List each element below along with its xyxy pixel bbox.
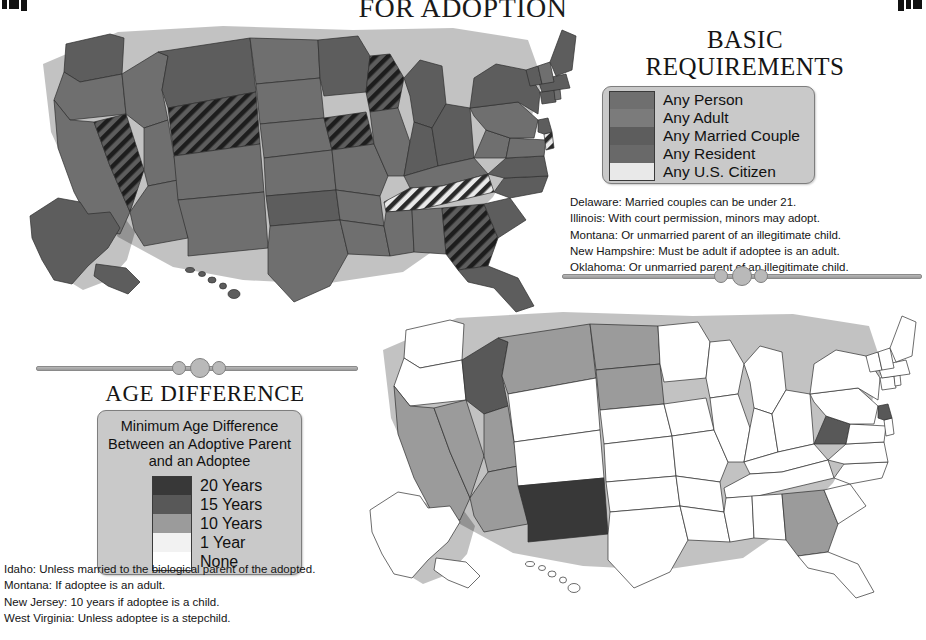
legend-swatch-15-years [152, 495, 192, 514]
state-alabama [412, 208, 446, 254]
state-washington [64, 34, 124, 82]
legend-label-10-years: 10 Years [200, 516, 262, 532]
state-maine [550, 30, 576, 76]
state-hawaii [526, 562, 581, 593]
state-new-jersey [878, 404, 892, 420]
footnote-west-virginia: West Virginia: Unless adoptee is a stepc… [4, 610, 354, 626]
legend-label-any-adult: Any Adult [663, 110, 729, 126]
basic-requirements-heading: BASIC REQUIREMENTS [585, 26, 905, 80]
basic-requirements-heading-line1: BASIC [585, 26, 905, 53]
basic-requirements-legend[interactable]: Any Person Any Adult Any Married Couple … [602, 86, 815, 184]
legend-item-20-years[interactable]: 20 Years [152, 476, 293, 495]
legend-item-any-person[interactable]: Any Person [609, 91, 808, 109]
state-minnesota [658, 322, 710, 382]
state-iowa [664, 398, 714, 436]
footnote-new-jersey: New Jersey: 10 years if adoptee is a chi… [4, 594, 354, 610]
state-north-dakota [250, 38, 320, 84]
footnote-illinois: Illinois: With court permission, minors … [570, 210, 920, 226]
state-minnesota [318, 36, 370, 96]
legend-label-20-years: 20 Years [200, 478, 262, 494]
state-maine [890, 316, 916, 362]
legend-item-any-adult[interactable]: Any Adult [609, 109, 808, 127]
state-rhode-island [894, 375, 901, 386]
legend-title-line1: Minimum Age Difference [106, 418, 293, 436]
legend-label-any-us-citizen: Any U.S. Citizen [663, 164, 776, 180]
state-south-dakota [596, 364, 664, 410]
divider-knob-left [714, 269, 728, 283]
divider-knob-center [732, 266, 752, 286]
legend-title-line3: and an Adoptee [106, 453, 293, 471]
legend-swatch-10-years [152, 514, 192, 533]
legend-label-any-resident: Any Resident [663, 146, 755, 162]
age-difference-legend-rows: 20 Years 15 Years 10 Years 1 Year None [152, 476, 293, 571]
divider-age-difference [36, 358, 358, 378]
legend-item-any-married-couple[interactable]: Any Married Couple [609, 127, 808, 145]
state-texas [268, 220, 348, 302]
state-mississippi [384, 210, 414, 256]
legend-label-15-years: 15 Years [200, 497, 262, 513]
legend-swatch-any-person [609, 91, 655, 109]
state-maryland [506, 138, 546, 158]
state-rhode-island [554, 89, 561, 100]
footnote-montana: Montana: If adoptee is an adult. [4, 577, 354, 593]
age-difference-legend-title: Minimum Age Difference Between an Adopti… [106, 418, 293, 471]
state-texas [608, 506, 688, 588]
basic-requirements-footnotes: Delaware: Married couples can be under 2… [570, 194, 920, 276]
legend-title-line2: Between an Adoptive Parent [106, 436, 293, 454]
divider-basic-requirements [562, 266, 922, 286]
footnote-delaware: Delaware: Married couples can be under 2… [570, 194, 920, 210]
basic-requirements-legend-rows: Any Person Any Adult Any Married Couple … [609, 91, 808, 181]
legend-swatch-1-year [152, 533, 192, 552]
divider-knob-right [754, 269, 768, 283]
legend-label-any-person: Any Person [663, 92, 743, 108]
age-difference-heading: AGE DIFFERENCE [60, 382, 350, 407]
legend-label-1-year: 1 Year [200, 535, 245, 551]
legend-swatch-any-resident [609, 145, 655, 163]
legend-item-any-us-citizen[interactable]: Any U.S. Citizen [609, 163, 808, 181]
state-new-mexico [178, 192, 268, 256]
state-delaware [884, 418, 894, 436]
legend-item-15-years[interactable]: 15 Years [152, 495, 293, 514]
state-alabama [752, 494, 786, 540]
state-north-dakota [590, 324, 660, 370]
age-difference-footnotes: Idaho: Unless married to the biological … [4, 561, 354, 626]
divider-knob-right [212, 361, 226, 375]
legend-swatch-any-married-couple [609, 127, 655, 145]
footnote-montana: Montana: Or unmarried parent of an illeg… [570, 227, 920, 243]
legend-swatch-20-years [152, 476, 192, 495]
divider-knob-center [190, 358, 210, 378]
footnote-new-hampshire: New Hampshire: Must be adult if adoptee … [570, 243, 920, 259]
state-alaska-aleutians [94, 264, 140, 294]
state-washington [404, 320, 464, 368]
basic-requirements-heading-line2: REQUIREMENTS [585, 53, 905, 80]
state-new-jersey [538, 118, 552, 134]
legend-swatch-any-adult [609, 109, 655, 127]
state-iowa [324, 112, 374, 150]
legend-label-any-married-couple: Any Married Couple [663, 128, 800, 144]
legend-swatch-any-us-citizen [609, 163, 655, 181]
state-maryland [846, 424, 886, 444]
footnote-idaho: Idaho: Unless married to the biological … [4, 561, 354, 577]
state-oklahoma [266, 190, 340, 226]
legend-item-1-year[interactable]: 1 Year [152, 533, 293, 552]
state-new-mexico [518, 478, 608, 542]
divider-knob-left [172, 361, 186, 375]
state-mississippi [724, 496, 754, 542]
state-delaware [544, 132, 554, 150]
map-basic-requirements[interactable] [18, 16, 578, 336]
state-alaska-aleutians [434, 558, 480, 588]
state-oklahoma [606, 476, 680, 512]
state-south-dakota [256, 78, 324, 124]
age-difference-legend[interactable]: Minimum Age Difference Between an Adopti… [97, 410, 302, 575]
legend-item-any-resident[interactable]: Any Resident [609, 145, 808, 163]
state-kansas [264, 150, 336, 196]
state-kansas [604, 436, 676, 482]
map-age-difference[interactable] [352, 300, 922, 640]
legend-item-10-years[interactable]: 10 Years [152, 514, 293, 533]
state-florida [798, 552, 874, 598]
